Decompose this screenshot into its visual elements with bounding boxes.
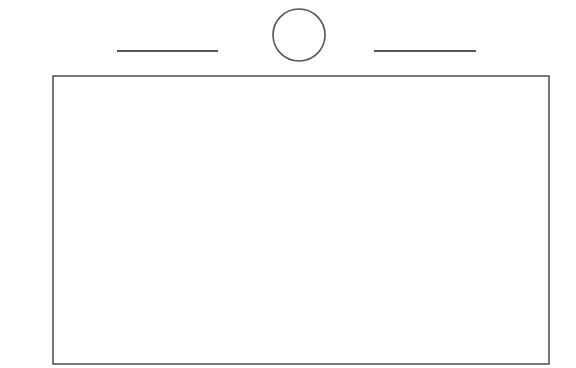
diagram-canvas [0,0,576,368]
main-rectangle [53,76,549,364]
center-circle [273,9,325,61]
